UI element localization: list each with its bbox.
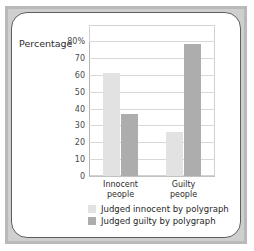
y-tick-label: 0 [80,172,85,181]
legend-swatch-icon [88,217,96,225]
data-area: 80%706050403020100 InnocentpeopleGuiltyp… [89,41,215,176]
x-category-label-line: people [170,190,197,200]
legend-swatch-icon [88,205,96,213]
gridline [89,41,215,42]
bar [103,73,120,176]
plot-area: 80%706050403020100 InnocentpeopleGuiltyp… [89,25,215,176]
y-tick-label: 60 [75,70,85,79]
x-category-label: Guiltypeople [170,180,197,200]
chart-legend: Judged innocent by polygraphJudged guilt… [88,203,229,227]
legend-item: Judged guilty by polygraph [88,215,229,227]
x-category-label: Innocentpeople [103,180,138,200]
y-tick-label: 20 [75,138,85,147]
gridline [89,176,215,177]
chart-figure: Percentage 80%706050403020100 Innocentpe… [0,0,254,251]
y-tick-label: 40 [75,104,85,113]
x-category-label-line: people [103,190,138,200]
bar [166,132,183,176]
y-tick-label: 50 [75,87,85,96]
x-category-label-line: Innocent [103,180,138,190]
legend-label: Judged guilty by polygraph [101,216,216,226]
y-tick-label: 10 [75,155,85,164]
y-axis-caption: Percentage [19,38,72,49]
y-tick-label: 80% [67,37,85,46]
legend-label: Judged innocent by polygraph [101,204,229,214]
bar [121,114,138,176]
bar [184,44,201,176]
y-tick-label: 30 [75,121,85,130]
legend-item: Judged innocent by polygraph [88,203,229,215]
x-category-label-line: Guilty [170,180,197,190]
y-tick-label: 70 [75,53,85,62]
